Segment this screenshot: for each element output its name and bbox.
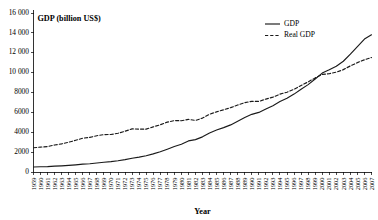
x-tick-label: 1992 bbox=[262, 178, 269, 191]
y-tick-label: 6000 bbox=[14, 107, 29, 116]
x-tick-label: 1973 bbox=[128, 178, 135, 191]
x-tick-label: 1994 bbox=[276, 177, 283, 191]
x-tick-label: 1966 bbox=[79, 178, 86, 191]
x-tick-label: 1986 bbox=[220, 178, 227, 191]
x-tick-label: 1959 bbox=[30, 178, 37, 191]
legend-label-gdp: GDP bbox=[284, 19, 299, 28]
x-tick-label: 1967 bbox=[86, 177, 93, 191]
x-tick-label: 1990 bbox=[248, 178, 255, 191]
x-tick-label: 2002 bbox=[332, 178, 339, 191]
x-tick-label: 1997 bbox=[297, 177, 304, 191]
x-tick-label: 1969 bbox=[100, 178, 107, 191]
y-tick-label: 4000 bbox=[14, 127, 29, 136]
x-tick-label: 1978 bbox=[163, 178, 170, 191]
legend-label-real-gdp: Real GDP bbox=[284, 30, 315, 39]
x-tick-label: 1968 bbox=[93, 178, 100, 191]
x-tick-label: 1991 bbox=[255, 178, 262, 191]
y-tick-label: 10 000 bbox=[9, 67, 30, 76]
x-tick-label: 2007 bbox=[368, 177, 375, 191]
gdp-line-chart: 0200040006000800010 00012 00014 00016 00… bbox=[0, 0, 378, 220]
x-axis-tick-labels: 1959196019611962196319641965196619671968… bbox=[30, 177, 375, 191]
series-gdp bbox=[34, 35, 372, 167]
chart-title: GDP (billion US$) bbox=[38, 14, 102, 23]
x-tick-label: 1982 bbox=[192, 178, 199, 191]
x-tick-label: 1963 bbox=[58, 178, 65, 191]
x-tick-label: 1961 bbox=[44, 178, 51, 191]
x-tick-label: 1970 bbox=[107, 178, 114, 191]
x-tick-label: 1976 bbox=[149, 178, 156, 191]
x-tick-label: 1975 bbox=[142, 178, 149, 191]
x-tick-label: 1983 bbox=[199, 178, 206, 191]
y-axis-tick-labels: 0200040006000800010 00012 00014 00016 00… bbox=[9, 8, 30, 176]
x-tick-label: 1972 bbox=[121, 178, 128, 191]
x-tick-label: 1988 bbox=[234, 178, 241, 191]
y-tick-label: 12 000 bbox=[9, 47, 30, 56]
x-tick-label: 1979 bbox=[171, 178, 178, 191]
x-tick-label: 2006 bbox=[361, 178, 368, 191]
x-axis-title: Year bbox=[194, 207, 211, 216]
x-tick-label: 1971 bbox=[114, 178, 121, 191]
chart-legend: GDPReal GDP bbox=[265, 19, 315, 40]
series-lines bbox=[34, 35, 372, 167]
x-tick-label: 2000 bbox=[318, 178, 325, 191]
x-tick-label: 1989 bbox=[241, 178, 248, 191]
x-tick-label: 1999 bbox=[311, 178, 318, 191]
y-tick-label: 16 000 bbox=[9, 8, 30, 17]
y-tick-label: 8000 bbox=[14, 87, 29, 96]
x-tick-label: 1995 bbox=[283, 178, 290, 191]
x-tick-label: 1974 bbox=[135, 177, 142, 191]
x-tick-label: 1960 bbox=[37, 178, 44, 191]
x-tick-label: 1993 bbox=[269, 178, 276, 191]
x-tick-label: 1965 bbox=[72, 178, 79, 191]
x-tick-label: 1985 bbox=[213, 178, 220, 191]
x-tick-label: 1962 bbox=[51, 178, 58, 191]
y-tick-label: 14 000 bbox=[9, 28, 30, 37]
x-tick-label: 1981 bbox=[185, 178, 192, 191]
x-tick-label: 2003 bbox=[340, 178, 347, 191]
x-tick-label: 1980 bbox=[178, 178, 185, 191]
x-tick-label: 2001 bbox=[325, 178, 332, 191]
x-tick-label: 2004 bbox=[347, 177, 354, 191]
x-tick-label: 1977 bbox=[156, 177, 163, 191]
x-tick-label: 1964 bbox=[65, 177, 72, 191]
x-tick-label: 1984 bbox=[206, 177, 213, 191]
series-real-gdp bbox=[34, 57, 372, 147]
chart-canvas: 0200040006000800010 00012 00014 00016 00… bbox=[0, 0, 378, 220]
y-tick-label: 0 bbox=[25, 167, 29, 176]
y-tick-label: 2000 bbox=[14, 147, 29, 156]
x-tick-label: 1987 bbox=[227, 177, 234, 191]
x-tick-label: 1996 bbox=[290, 178, 297, 191]
x-tick-label: 1998 bbox=[304, 178, 311, 191]
x-tick-label: 2005 bbox=[354, 178, 361, 191]
